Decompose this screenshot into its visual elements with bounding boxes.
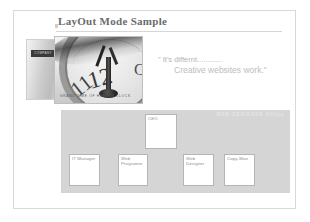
org-node-web-designer-label: Web Designer: [186, 156, 204, 166]
org-node-web-programmer[interactable]: Web Programer: [118, 154, 148, 186]
quote-block: " It's differnt............ Creative web…: [158, 54, 288, 76]
page-title-text: LayOut Mode Sample: [58, 15, 288, 28]
title-tick-mark: [55, 24, 58, 28]
clock-center-post: [106, 57, 111, 93]
quote-line-1: " It's differnt............: [158, 54, 288, 65]
org-node-it-manager[interactable]: IT Manager: [69, 154, 100, 186]
org-node-copy-man[interactable]: Copy-Man: [224, 154, 255, 186]
photo-caption: GRAND TIME OF HEAVEN CLOCK: [60, 94, 131, 98]
hero-image: COMPANY 11 12 C GRAND TIME OF HEAVEN CLO…: [26, 36, 143, 104]
quote-line-2: Creative websites work.": [158, 65, 288, 76]
org-chart-panel-label: WEB-DESIGNER Office: [216, 112, 284, 117]
org-node-ceo-label: CEO: [148, 116, 158, 121]
title-underline: [56, 31, 282, 32]
org-chart-panel: WEB-DESIGNER Office CEO IT Manager Web P…: [61, 110, 290, 193]
binder-spine-label: COMPANY: [32, 50, 54, 57]
org-node-web-designer[interactable]: Web Designer: [183, 154, 214, 186]
org-node-web-programmer-label: Web Programer: [121, 156, 143, 166]
slide-canvas: LayOut Mode Sample COMPANY 11 12 C GRAND…: [0, 0, 310, 222]
org-node-ceo[interactable]: CEO: [145, 114, 177, 149]
page-title: LayOut Mode Sample: [58, 15, 288, 33]
org-node-it-manager-label: IT Manager: [72, 156, 95, 161]
clock-numeral-edge: C: [134, 61, 143, 79]
org-node-copy-man-label: Copy-Man: [227, 156, 248, 161]
clock-photo: 11 12 C GRAND TIME OF HEAVEN CLOCK: [54, 36, 143, 104]
